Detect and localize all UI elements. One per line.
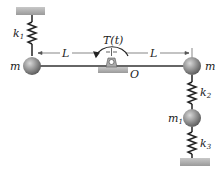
mechanical-system-diagram: k1 L L T(t) O m m k2 [0, 0, 222, 177]
spring-k2 [188, 75, 196, 110]
mass-right [183, 57, 201, 75]
pivot-label: O [130, 68, 139, 81]
bottom-ground [180, 158, 210, 166]
mass-left [23, 57, 41, 75]
L-left-label: L [61, 47, 69, 60]
mass-left-label: m [10, 60, 20, 73]
mass-right-label: m [205, 60, 215, 73]
dimension-L-right [125, 48, 192, 57]
torque-arrow [94, 47, 128, 57]
spring-k1 [28, 15, 36, 56]
L-right-label: L [149, 47, 157, 60]
k3-label: k3 [200, 137, 212, 151]
k2-label: k2 [200, 86, 212, 100]
spring-k3 [188, 127, 196, 158]
top-ground [16, 7, 45, 15]
k1-label: k1 [13, 27, 24, 41]
mass-m1-label: m1 [168, 112, 183, 126]
mass-m1 [183, 109, 201, 127]
torque-label: T(t) [103, 34, 123, 47]
